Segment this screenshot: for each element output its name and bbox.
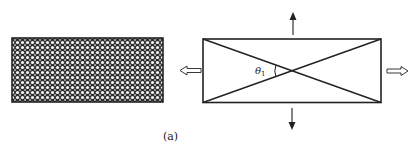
- hollow-arrow-right-icon: [387, 67, 408, 76]
- figure-diagram: θ1: [0, 0, 415, 149]
- mesh-rectangle: [12, 38, 163, 102]
- figure-caption: (a): [163, 130, 178, 143]
- arrow-down-icon: [289, 108, 296, 130]
- hollow-arrow-left-icon: [180, 66, 201, 75]
- diagonal-rectangle: θ1: [203, 39, 381, 103]
- arrow-up-icon: [290, 12, 297, 35]
